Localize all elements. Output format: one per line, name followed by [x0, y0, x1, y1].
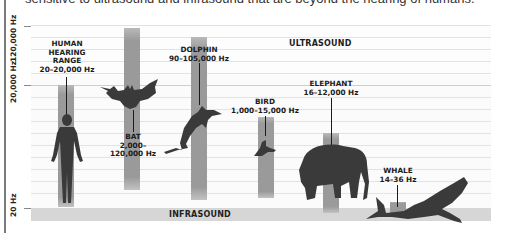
- ultrasound-band: [31, 25, 491, 75]
- dolphin-label: DOLPHIN 90–105,000 Hz: [169, 46, 229, 63]
- infrasound-label: INFRASOUND: [169, 210, 231, 219]
- whale-silhouette-icon: [364, 175, 474, 225]
- bird-pointer: [265, 116, 266, 136]
- y-label-20000: 20,000 Hz: [9, 61, 18, 103]
- y-label-120000: 120,000 Hz: [9, 15, 18, 62]
- human-label: HUMAN HEARING RANGE 20–20,000 Hz: [40, 40, 95, 74]
- elephant-silhouette-icon: [297, 142, 372, 208]
- bird-label: BIRD 1,000–15,000 Hz: [231, 98, 299, 115]
- human-silhouette-icon: [47, 113, 87, 205]
- bat-pointer: [133, 110, 134, 132]
- bird-silhouette-icon: [254, 140, 278, 158]
- ultrasound-label: ULTRASOUND: [289, 39, 351, 48]
- dolphin-silhouette-icon: [162, 98, 222, 156]
- bat-silhouette-icon: [100, 79, 160, 111]
- elephant-label: ELEPHANT 16–12,000 Hz: [304, 80, 359, 97]
- bat-label: BAT 2,000– 120,000 Hz: [110, 133, 156, 159]
- y-label-20: 20 Hz: [9, 193, 18, 217]
- caption-text: sensitive to ultrasound and infrasound t…: [25, 0, 475, 6]
- left-border-rule: [4, 0, 6, 233]
